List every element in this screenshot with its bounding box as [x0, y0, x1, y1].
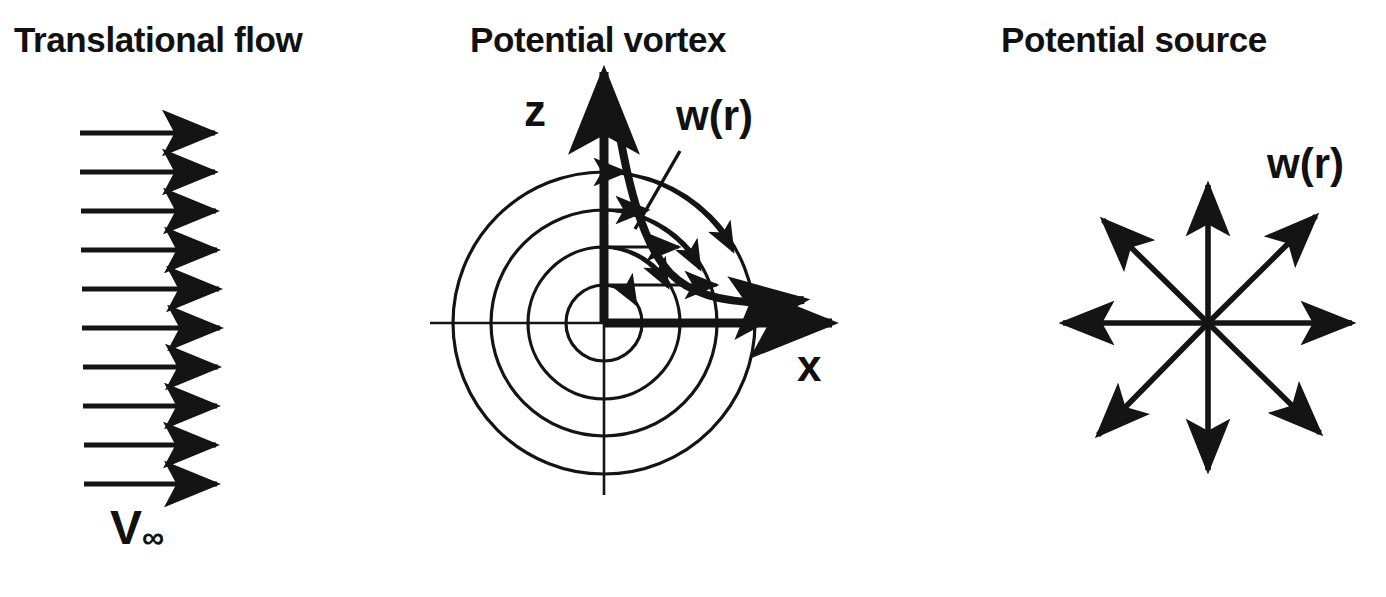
velocity-distribution-curve	[616, 113, 804, 302]
z-axis-label: z	[524, 86, 546, 136]
panel-title-potential-vortex: Potential vortex	[470, 20, 726, 60]
velocity-symbol: V	[110, 501, 142, 554]
potential-source-diagram	[1040, 170, 1370, 490]
vortex-velocity-label: w(r)	[676, 92, 753, 140]
translational-flow-arrow-group	[80, 133, 220, 484]
source-ray-southeast	[1208, 323, 1320, 433]
source-velocity-label: w(r)	[1267, 140, 1344, 188]
freestream-velocity-label: V∞	[110, 500, 163, 556]
infinity-subscript: ∞	[142, 520, 163, 555]
source-ray-southwest	[1098, 323, 1208, 435]
figure-canvas: Translational flow Potential vortex Pote…	[0, 0, 1386, 597]
source-ray-northwest	[1103, 220, 1208, 323]
potential-vortex-diagram	[430, 55, 900, 545]
panel-title-potential-source: Potential source	[1001, 20, 1267, 60]
source-ray-northeast	[1208, 216, 1316, 323]
translational-flow-diagram	[0, 0, 440, 597]
x-axis-label: x	[797, 341, 821, 391]
source-ray-group	[1063, 185, 1352, 470]
